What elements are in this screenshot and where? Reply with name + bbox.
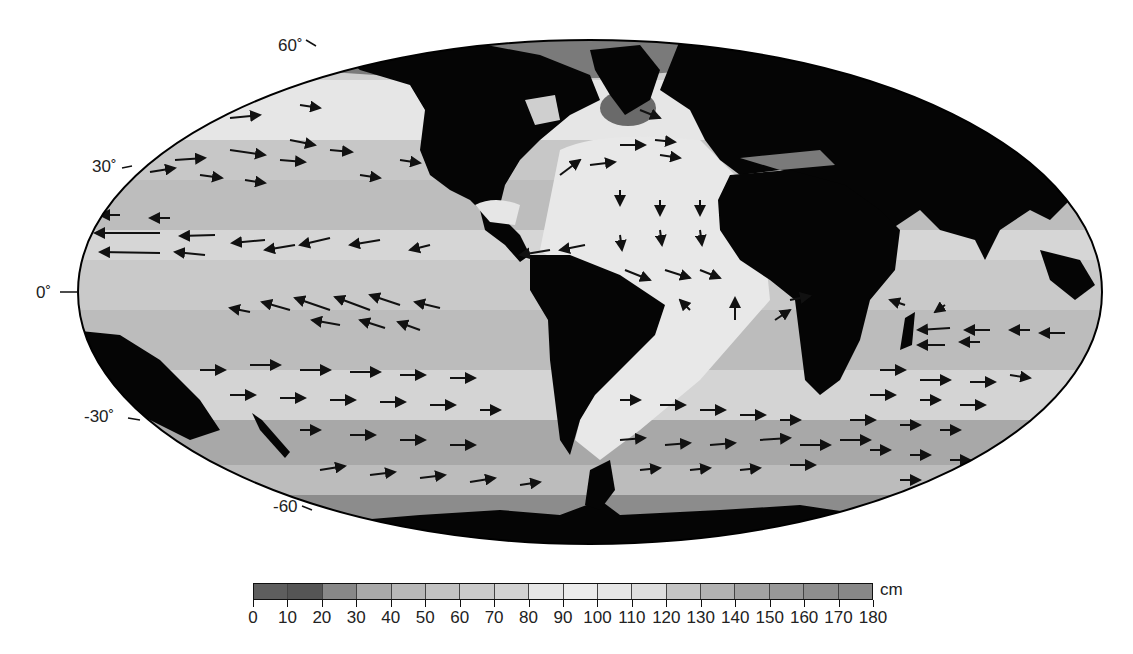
latitude-label-0: 0˚ (36, 283, 51, 303)
colorbar-swatch (323, 584, 357, 599)
colorbar-tick-label: 0 (248, 608, 257, 628)
colorbar-tick-label: 20 (312, 608, 331, 628)
colorbar-swatch (288, 584, 322, 599)
colorbar-tick-label: 110 (618, 608, 645, 628)
colorbar-tick (425, 600, 426, 607)
colorbar-tick (460, 600, 461, 607)
colorbar-tick-label: 80 (519, 608, 538, 628)
colorbar-tick (529, 600, 530, 607)
colorbar-tick (839, 600, 840, 607)
colorbar-tick-label: 90 (554, 608, 573, 628)
latitude-label-60s: -60 (273, 497, 298, 517)
colorbar-tick-label: 170 (824, 608, 852, 628)
colorbar-tick-label: 50 (416, 608, 435, 628)
latitude-label-30s: -30˚ (84, 407, 114, 427)
colorbar-swatch (357, 584, 391, 599)
colorbar-swatch (632, 584, 666, 599)
colorbar-tick-label: 10 (278, 608, 297, 628)
colorbar-tick-labels: 0102030405060708090100110120130140150160… (253, 608, 873, 630)
colorbar-swatch (564, 584, 598, 599)
colorbar-tick-label: 70 (485, 608, 504, 628)
colorbar-tick-label: 100 (583, 608, 611, 628)
colorbar-tick (563, 600, 564, 607)
colorbar-tick-label: 40 (381, 608, 400, 628)
colorbar-swatch (839, 584, 872, 599)
colorbar-tick (356, 600, 357, 607)
colorbar-tick (804, 600, 805, 607)
colorbar-tick-label: 140 (721, 608, 749, 628)
colorbar-tick-label: 60 (450, 608, 469, 628)
colorbar-swatch (495, 584, 529, 599)
colorbar-swatch (529, 584, 563, 599)
globe-content (70, 30, 1120, 565)
colorbar-tick-label: 120 (652, 608, 680, 628)
world-map (0, 0, 1133, 654)
colorbar-swatch (770, 584, 804, 599)
colorbar-swatch (254, 584, 288, 599)
colorbar-tick-label: 150 (755, 608, 783, 628)
colorbar-swatch (701, 584, 735, 599)
colorbar-swatch (735, 584, 769, 599)
colorbar-tick (287, 600, 288, 607)
colorbar-tick (701, 600, 702, 607)
colorbar-swatch (598, 584, 632, 599)
colorbar-tick-label: 30 (347, 608, 366, 628)
latitude-label-60n: 60˚ (278, 36, 303, 56)
colorbar-swatch (426, 584, 460, 599)
colorbar-tick (735, 600, 736, 607)
colorbar-tick (597, 600, 598, 607)
colorbar-tick (253, 600, 254, 607)
colorbar-tick (391, 600, 392, 607)
colorbar-tick (322, 600, 323, 607)
colorbar-tick (632, 600, 633, 607)
colorbar (253, 583, 873, 600)
colorbar-unit: cm (880, 580, 903, 600)
colorbar-swatch (667, 584, 701, 599)
colorbar-tick (494, 600, 495, 607)
colorbar-tick-label: 160 (790, 608, 818, 628)
latitude-label-30n: 30˚ (92, 157, 117, 177)
colorbar-swatch (460, 584, 494, 599)
colorbar-tick (770, 600, 771, 607)
colorbar-tick-label: 130 (687, 608, 715, 628)
colorbar-swatch (392, 584, 426, 599)
colorbar-tick (666, 600, 667, 607)
colorbar-tick (873, 600, 874, 607)
colorbar-swatch (804, 584, 838, 599)
colorbar-tick-label: 180 (859, 608, 887, 628)
colorbar-ticks (253, 600, 873, 608)
